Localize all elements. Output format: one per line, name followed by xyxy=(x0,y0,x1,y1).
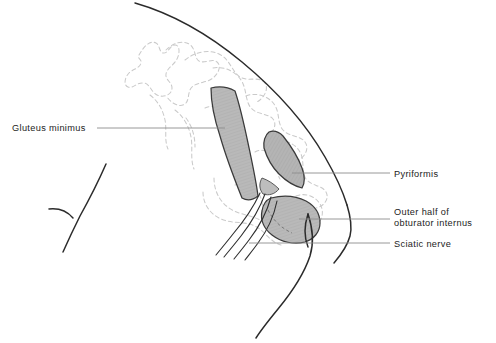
gluteus-minimus-muscle xyxy=(211,87,258,200)
anatomical-figure: Gluteus minimus Pyriformis Outer half of… xyxy=(0,0,496,343)
label-sciatic-nerve: Sciatic nerve xyxy=(394,239,451,249)
sacrum-hidden-outline xyxy=(125,42,179,96)
label-pyriformis: Pyriformis xyxy=(394,169,438,179)
gluteal-fold-branch xyxy=(49,209,73,218)
label-gluteus-minimus: Gluteus minimus xyxy=(12,123,86,133)
pyriformis-tendon-wedge xyxy=(260,178,279,195)
sacroiliac-dashed xyxy=(150,95,168,149)
body-contours xyxy=(49,3,351,338)
label-obturator-internus-line1: Outer half of xyxy=(394,207,449,217)
gluteal-fold-contour xyxy=(63,164,106,252)
sciatic-strand-1 xyxy=(216,193,260,255)
label-obturator-internus-line2: obturator internus xyxy=(394,218,472,228)
sacrotuberous-dashed xyxy=(175,110,194,169)
pyriformis-muscle xyxy=(264,131,305,188)
obturator-internus-muscle xyxy=(261,196,320,243)
coccyx-dashed xyxy=(186,118,195,147)
lateral-thigh-contour xyxy=(334,205,351,263)
anatomy-canvas: Gluteus minimus Pyriformis Outer half of… xyxy=(0,0,496,343)
